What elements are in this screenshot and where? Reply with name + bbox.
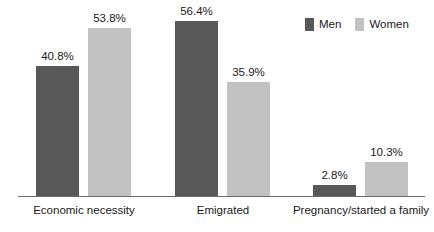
bar-men-economic-necessity: 40.8%: [36, 66, 79, 196]
bar-women-pregnancy: 10.3%: [365, 162, 408, 196]
bar-value-men-emigrated: 56.4%: [180, 5, 213, 18]
plot-area: 40.8% 53.8% 56.4% 35.9% 2.8% 10.3% Econo…: [0, 0, 434, 232]
bar-men-emigrated: 56.4%: [175, 21, 218, 196]
bar-rect: [313, 185, 356, 196]
bar-men-pregnancy: 2.8%: [313, 185, 356, 196]
bar-rect: [365, 162, 408, 196]
category-label-emigrated: Emigrated: [197, 203, 249, 217]
bar-value-men-pregnancy: 2.8%: [321, 169, 347, 182]
bar-rect: [88, 28, 131, 196]
bar-chart: Men Women 40.8% 53.8% 56.4% 35.9%: [0, 0, 434, 232]
category-label-pregnancy: Pregnancy/started a family: [293, 203, 429, 217]
bar-rect: [36, 66, 79, 196]
bar-rect: [227, 82, 270, 196]
bar-rect: [175, 21, 218, 196]
bar-value-women-economic-necessity: 53.8%: [93, 12, 126, 25]
bar-value-women-emigrated: 35.9%: [232, 66, 265, 79]
bar-women-emigrated: 35.9%: [227, 82, 270, 196]
bar-value-women-pregnancy: 10.3%: [370, 146, 403, 159]
x-axis-line: [18, 196, 425, 197]
bar-women-economic-necessity: 53.8%: [88, 28, 131, 196]
category-label-economic-necessity: Economic necessity: [33, 203, 135, 217]
bar-value-men-economic-necessity: 40.8%: [41, 50, 74, 63]
